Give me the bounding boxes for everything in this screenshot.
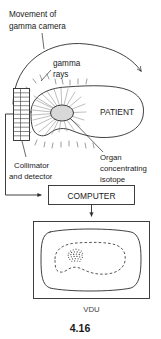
- gamma-camera-diagram: Movement of gamma camera gamma rays PATI…: [0, 0, 161, 339]
- figure-container: Movement of gamma camera gamma rays PATI…: [0, 0, 161, 339]
- gamma-rays-line1: gamma: [53, 59, 81, 68]
- movement-label-line2: gamma camera: [9, 22, 66, 31]
- organ-label: Organ concentrating isotope: [70, 118, 147, 184]
- vdu-bezel: [34, 222, 150, 299]
- gamma-rays-line2: rays: [53, 70, 68, 79]
- collimator-label-line2: and detector: [9, 172, 53, 181]
- vdu-label: VDU: [83, 305, 100, 314]
- curved-arrow-icon: [13, 44, 141, 105]
- organ-ellipse: [51, 105, 74, 121]
- movement-label: Movement of gamma camera: [9, 10, 66, 49]
- organ-label-line3: isotope: [100, 175, 125, 184]
- movement-leader-line: [42, 33, 44, 49]
- gamma-rays-label: gamma rays: [41, 59, 81, 81]
- gamma-rays-leader-line: [41, 70, 51, 81]
- organ-concentrating-isotope: [51, 105, 74, 121]
- patient-label: PATIENT: [100, 107, 134, 117]
- computer-label: COMPUTER: [68, 191, 116, 201]
- organ-label-line1: Organ: [100, 153, 122, 162]
- vdu-monitor: VDU: [34, 222, 150, 315]
- organ-label-line2: concentrating: [100, 164, 147, 173]
- collimator-leader-line: [22, 141, 26, 157]
- organ-leader-line: [70, 118, 103, 152]
- movement-arc: [13, 44, 141, 105]
- movement-label-line1: Movement of: [9, 10, 57, 19]
- collimator-label-line1: Collimator: [14, 161, 49, 170]
- computer-box: COMPUTER: [49, 186, 135, 205]
- figure-caption: 4.16: [70, 322, 91, 334]
